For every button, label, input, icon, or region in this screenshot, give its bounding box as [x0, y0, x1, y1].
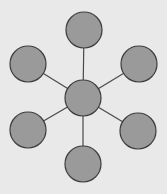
node-bottom-left: [10, 112, 46, 148]
nodes-group: [10, 12, 157, 182]
node-bottom: [65, 146, 101, 182]
node-bottom-right: [120, 113, 156, 149]
hub-spoke-diagram: [0, 0, 167, 194]
diagram-canvas: [0, 0, 167, 194]
node-top: [66, 12, 102, 48]
node-center: [65, 80, 101, 116]
node-top-left: [10, 46, 46, 82]
node-top-right: [121, 46, 157, 82]
